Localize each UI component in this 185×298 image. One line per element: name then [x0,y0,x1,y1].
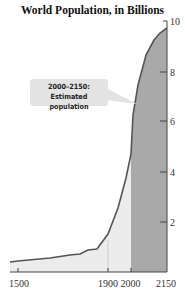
y-tick-10: 10 [170,16,180,27]
x-tick-1500: 1500 [9,278,29,289]
callout-line2: Estimated population [30,92,108,112]
callout-pointer [106,88,137,104]
x-tick-2150: 2150 [156,278,176,289]
y-tick-4: 4 [170,167,175,178]
estimated-area [131,28,167,272]
estimate-callout: 2000–2150: Estimated population [30,79,108,106]
x-tick-1900-2000: 1900 2000 [98,278,141,289]
callout-line1: 2000–2150: [30,82,108,92]
y-tick-8: 8 [170,67,175,78]
y-tick-2: 2 [170,217,175,228]
y-tick-6: 6 [170,116,175,127]
chart-plot: 10 8 6 4 2 1500 1900 2000 2150 [0,0,185,298]
